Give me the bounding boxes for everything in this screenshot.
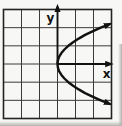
y-axis-label: y: [47, 11, 55, 25]
figure-page: { "figure": { "description": "Square gri…: [0, 0, 122, 126]
parabola-graph: y x: [0, 0, 122, 126]
x-axis-label: x: [103, 67, 111, 81]
